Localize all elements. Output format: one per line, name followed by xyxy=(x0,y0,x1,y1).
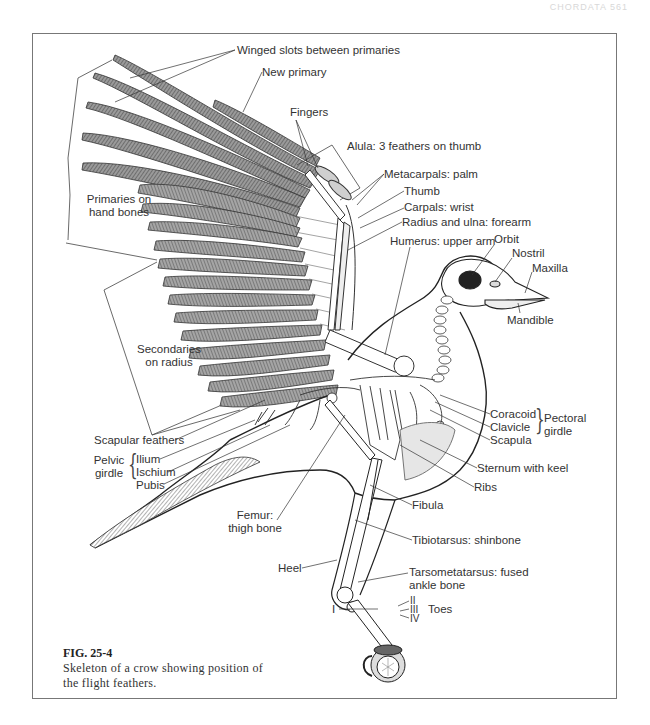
foot xyxy=(364,645,405,682)
orbit-shape xyxy=(459,271,481,289)
label-secondaries-line2: on radius xyxy=(134,356,204,369)
label-ilium: Ilium xyxy=(136,453,160,466)
label-tarso-line2: ankle bone xyxy=(409,579,529,592)
label-scapula: Scapula xyxy=(490,434,532,447)
label-toes: Toes xyxy=(428,603,452,616)
label-humerus: Humerus: upper arm xyxy=(390,235,495,248)
label-coracoid: Coracoid xyxy=(490,408,536,421)
label-femur: Femur: thigh bone xyxy=(225,509,285,535)
label-secondaries: Secondaries on radius xyxy=(134,343,204,369)
label-toe-1: I xyxy=(332,603,335,616)
label-heel: Heel xyxy=(278,562,302,575)
label-winged-slots: Winged slots between primaries xyxy=(237,44,400,57)
label-fingers: Fingers xyxy=(290,106,328,119)
label-nostril: Nostril xyxy=(512,247,545,260)
figure-caption: FIG. 25-4 Skeleton of a crow showing pos… xyxy=(63,646,273,691)
label-pectoral-line2: girdle xyxy=(544,425,586,438)
label-primaries-line2: hand bones xyxy=(84,206,154,219)
label-maxilla: Maxilla xyxy=(532,262,568,275)
label-pubis: Pubis xyxy=(136,479,165,492)
label-tarsometatarsus: Tarsometatarsus: fused ankle bone xyxy=(409,566,529,592)
label-alula: Alula: 3 feathers on thumb xyxy=(347,140,481,153)
label-sternum: Sternum with keel xyxy=(477,462,568,475)
label-femur-line2: thigh bone xyxy=(225,522,285,535)
label-primaries-line1: Primaries on xyxy=(84,193,154,206)
label-pectoral-girdle: Pectoral girdle xyxy=(544,412,586,438)
label-scapular-feathers: Scapular feathers xyxy=(94,434,184,447)
label-pelvic-girdle: Pelvic girdle xyxy=(92,454,126,480)
rib-cage xyxy=(350,376,455,480)
label-metacarpals: Metacarpals: palm xyxy=(384,168,478,181)
label-secondaries-line1: Secondaries xyxy=(134,343,204,356)
label-orbit: Orbit xyxy=(494,233,519,246)
figure-number: FIG. 25-4 xyxy=(63,646,273,661)
label-pelvic-line2: girdle xyxy=(92,467,126,480)
label-ischium: Ischium xyxy=(136,466,176,479)
label-clavicle: Clavicle xyxy=(490,421,530,434)
leg-bones xyxy=(325,400,395,650)
label-carpals: Carpals: wrist xyxy=(404,201,474,214)
label-new-primary: New primary xyxy=(262,66,327,79)
neck-vertebrae xyxy=(432,296,453,382)
figure-caption-text: Skeleton of a crow showing position of t… xyxy=(63,661,273,691)
label-pectoral-line1: Pectoral xyxy=(544,412,586,425)
label-toe-4: IV xyxy=(410,612,419,625)
label-radius-ulna: Radius and ulna: forearm xyxy=(402,216,531,229)
label-primaries: Primaries on hand bones xyxy=(84,193,154,219)
label-femur-line1: Femur: xyxy=(225,509,285,522)
label-tarso-line1: Tarsometatarsus: fused xyxy=(409,566,529,579)
label-fibula: Fibula xyxy=(412,499,443,512)
label-thumb: Thumb xyxy=(404,185,440,198)
label-ribs: Ribs xyxy=(474,481,497,494)
label-tibiotarsus: Tibiotarsus: shinbone xyxy=(412,534,521,547)
label-mandible: Mandible xyxy=(507,314,554,327)
label-pelvic-line1: Pelvic xyxy=(92,454,126,467)
